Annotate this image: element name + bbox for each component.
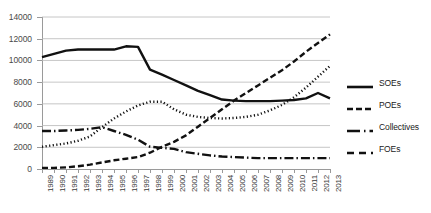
legend-item-foes[interactable]: FOEs <box>347 138 431 160</box>
legend-label: SOEs <box>379 78 401 88</box>
x-tick-mark <box>282 170 283 173</box>
x-tick-mark <box>294 170 295 173</box>
series-line-soes <box>42 46 330 101</box>
x-tick-label: 2002 <box>202 175 211 192</box>
y-tick-mark <box>37 126 42 127</box>
x-tick-label: 1989 <box>46 175 55 192</box>
x-tick-mark <box>90 170 91 173</box>
x-tick-mark <box>246 170 247 173</box>
x-tick-label: 2003 <box>214 175 223 192</box>
x-tick-label: 1995 <box>118 175 127 192</box>
x-tick-mark <box>306 170 307 173</box>
y-tick-mark <box>37 39 42 40</box>
x-tick-label: 1998 <box>154 175 163 192</box>
legend-swatch-icon <box>347 144 373 154</box>
line-chart: 02000400060008000100001200014000 1989199… <box>0 0 431 213</box>
x-tick-mark <box>138 170 139 173</box>
x-tick-mark <box>54 170 55 173</box>
x-tick-label: 2005 <box>238 175 247 192</box>
x-tick-mark <box>210 170 211 173</box>
y-tick-label: 14000 <box>9 12 32 22</box>
y-tick-mark <box>37 60 42 61</box>
x-tick-label: 1994 <box>106 175 115 192</box>
x-tick-label: 2012 <box>322 175 331 192</box>
legend-item-soes[interactable]: SOEs <box>347 72 431 94</box>
y-tick-label: 12000 <box>9 34 32 44</box>
x-tick-mark <box>198 170 199 173</box>
x-tick-mark <box>42 170 43 173</box>
legend-label: Collectives <box>379 122 419 132</box>
x-tick-label: 1996 <box>130 175 139 192</box>
x-tick-mark <box>222 170 223 173</box>
plot-area <box>42 17 330 169</box>
y-tick-mark <box>37 104 42 105</box>
x-tick-label: 2006 <box>250 175 259 192</box>
x-tick-mark <box>330 170 331 173</box>
y-tick-label: 10000 <box>9 55 32 65</box>
x-tick-label: 2008 <box>274 175 283 192</box>
x-tick-label: 2000 <box>178 175 187 192</box>
x-tick-label: 2010 <box>298 175 307 192</box>
x-tick-mark <box>186 170 187 173</box>
x-tick-mark <box>66 170 67 173</box>
x-tick-label: 1990 <box>58 175 67 192</box>
y-tick-label: 4000 <box>13 121 32 131</box>
x-tick-mark <box>150 170 151 173</box>
x-tick-mark <box>114 170 115 173</box>
x-tick-label: 1993 <box>94 175 103 192</box>
y-tick-mark <box>37 17 42 18</box>
x-tick-mark <box>78 170 79 173</box>
legend-swatch-icon <box>347 122 373 132</box>
legend-item-collectives[interactable]: Collectives <box>347 116 431 138</box>
legend-label: FOEs <box>379 144 400 154</box>
x-tick-mark <box>234 170 235 173</box>
y-tick-mark <box>37 82 42 83</box>
y-tick-label: 8000 <box>13 77 32 87</box>
chart-legend: SOEsPOEsCollectivesFOEs <box>347 72 431 160</box>
x-tick-label: 2007 <box>262 175 271 192</box>
y-tick-mark <box>37 169 42 170</box>
y-tick-label: 0 <box>27 164 32 174</box>
x-tick-mark <box>258 170 259 173</box>
x-tick-mark <box>126 170 127 173</box>
plot-svg <box>42 17 330 169</box>
x-tick-label: 1992 <box>82 175 91 192</box>
x-tick-mark <box>318 170 319 173</box>
x-tick-mark <box>102 170 103 173</box>
x-tick-mark <box>270 170 271 173</box>
legend-swatch-icon <box>347 100 373 110</box>
legend-item-poes[interactable]: POEs <box>347 94 431 116</box>
y-tick-label: 6000 <box>13 99 32 109</box>
x-tick-label: 1997 <box>142 175 151 192</box>
y-tick-mark <box>37 147 42 148</box>
legend-label: POEs <box>379 100 401 110</box>
x-tick-label: 2001 <box>190 175 199 192</box>
legend-swatch-icon <box>347 78 373 88</box>
x-tick-label: 1991 <box>70 175 79 192</box>
series-line-collectives <box>42 127 330 158</box>
x-tick-label: 2009 <box>286 175 295 192</box>
x-tick-mark <box>162 170 163 173</box>
x-tick-mark <box>174 170 175 173</box>
x-tick-label: 2013 <box>334 175 343 192</box>
y-axis: 02000400060008000100001200014000 <box>0 17 38 169</box>
x-tick-label: 1999 <box>166 175 175 192</box>
y-tick-label: 2000 <box>13 142 32 152</box>
x-tick-label: 2004 <box>226 175 235 192</box>
x-tick-label: 2011 <box>310 175 319 191</box>
